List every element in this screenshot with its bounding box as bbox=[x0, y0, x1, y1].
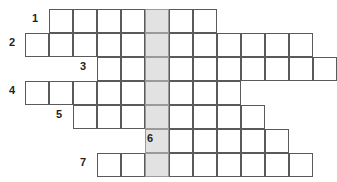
clue-number-5: 5 bbox=[56, 109, 62, 120]
crossword-cell[interactable] bbox=[49, 9, 73, 33]
crossword-cell[interactable] bbox=[265, 129, 289, 153]
crossword-cell[interactable] bbox=[121, 9, 145, 33]
crossword-cell[interactable] bbox=[217, 105, 241, 129]
crossword-cell-shaded[interactable] bbox=[145, 105, 169, 129]
crossword-cell[interactable] bbox=[169, 57, 193, 81]
crossword-cell-shaded[interactable] bbox=[145, 153, 169, 177]
crossword-cell[interactable] bbox=[121, 81, 145, 105]
crossword-cell[interactable] bbox=[97, 33, 121, 57]
crossword-cell-shaded[interactable] bbox=[145, 9, 169, 33]
crossword-cell[interactable] bbox=[289, 33, 313, 57]
crossword-cell[interactable] bbox=[97, 9, 121, 33]
crossword-cell[interactable] bbox=[169, 105, 193, 129]
crossword-cell[interactable] bbox=[73, 33, 97, 57]
crossword-cell[interactable] bbox=[265, 153, 289, 177]
crossword-cell[interactable] bbox=[265, 57, 289, 81]
clue-number-1: 1 bbox=[32, 13, 38, 24]
crossword-cell[interactable] bbox=[193, 105, 217, 129]
crossword-cell[interactable] bbox=[217, 153, 241, 177]
crossword-cell[interactable] bbox=[193, 153, 217, 177]
clue-number-6: 6 bbox=[147, 133, 153, 144]
crossword-cell[interactable] bbox=[73, 9, 97, 33]
crossword-cell[interactable] bbox=[265, 33, 289, 57]
crossword-cell[interactable] bbox=[217, 81, 241, 105]
crossword-cell[interactable] bbox=[121, 153, 145, 177]
crossword-cell[interactable] bbox=[97, 153, 121, 177]
crossword-cell[interactable] bbox=[241, 33, 265, 57]
crossword-cell[interactable] bbox=[49, 33, 73, 57]
clue-number-4: 4 bbox=[9, 85, 15, 96]
crossword-cell[interactable] bbox=[73, 105, 97, 129]
crossword-cell[interactable] bbox=[313, 57, 337, 81]
crossword-cell[interactable] bbox=[25, 33, 49, 57]
crossword-cell[interactable] bbox=[217, 33, 241, 57]
crossword-cell[interactable] bbox=[241, 105, 265, 129]
crossword-cell[interactable] bbox=[121, 105, 145, 129]
crossword-cell[interactable] bbox=[97, 57, 121, 81]
crossword-cell[interactable] bbox=[289, 57, 313, 81]
crossword-cell[interactable] bbox=[241, 57, 265, 81]
crossword-cell[interactable] bbox=[73, 81, 97, 105]
crossword-cell[interactable] bbox=[241, 129, 265, 153]
crossword-cell-shaded[interactable] bbox=[145, 33, 169, 57]
crossword-cell[interactable] bbox=[169, 9, 193, 33]
crossword-cell[interactable] bbox=[169, 33, 193, 57]
crossword-cell[interactable] bbox=[241, 153, 265, 177]
crossword-cell[interactable] bbox=[121, 57, 145, 81]
crossword-cell[interactable] bbox=[217, 57, 241, 81]
crossword-cell[interactable] bbox=[97, 81, 121, 105]
crossword-cell[interactable] bbox=[193, 33, 217, 57]
crossword-cell[interactable] bbox=[121, 33, 145, 57]
crossword-cell[interactable] bbox=[169, 153, 193, 177]
crossword-cell[interactable] bbox=[217, 129, 241, 153]
clue-number-3: 3 bbox=[80, 61, 86, 72]
crossword-cell[interactable] bbox=[193, 9, 217, 33]
crossword-cell-shaded[interactable] bbox=[145, 81, 169, 105]
clue-number-2: 2 bbox=[9, 37, 15, 48]
crossword-cell[interactable] bbox=[169, 81, 193, 105]
clue-number-7: 7 bbox=[80, 157, 86, 168]
crossword-cell[interactable] bbox=[193, 81, 217, 105]
crossword-cell[interactable] bbox=[193, 57, 217, 81]
crossword-cell[interactable] bbox=[25, 81, 49, 105]
crossword-cell-shaded[interactable] bbox=[145, 57, 169, 81]
crossword-cell[interactable] bbox=[169, 129, 193, 153]
crossword-cell[interactable] bbox=[193, 129, 217, 153]
crossword-cell[interactable] bbox=[289, 153, 313, 177]
crossword-cell[interactable] bbox=[97, 105, 121, 129]
crossword-cell[interactable] bbox=[49, 81, 73, 105]
